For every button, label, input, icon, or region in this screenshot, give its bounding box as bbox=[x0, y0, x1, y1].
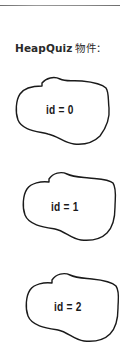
heap-object-2: id = 2 bbox=[24, 270, 122, 346]
heap-object-1: id = 1 bbox=[21, 169, 119, 245]
heap-object-0: id = 0 bbox=[14, 74, 112, 148]
page-title: HeapQuiz物件： bbox=[15, 40, 106, 55]
object-id-label: id = 0 bbox=[46, 102, 74, 117]
top-divider bbox=[0, 5, 120, 6]
title-cjk: 物件： bbox=[75, 42, 105, 54]
title-latin: HeapQuiz bbox=[15, 42, 72, 54]
object-id-label: id = 2 bbox=[54, 299, 82, 314]
object-id-label: id = 1 bbox=[51, 199, 79, 214]
